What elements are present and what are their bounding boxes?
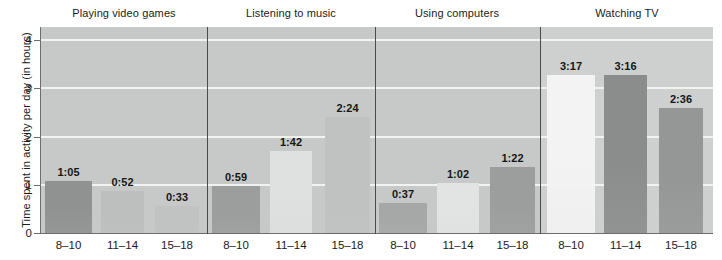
x-axis-line <box>40 233 713 234</box>
y-tick-label-1: 1 <box>14 179 32 191</box>
bar-value-2-3: 2:24 <box>336 102 358 114</box>
gridline-4 <box>41 39 713 41</box>
x-tick-label-4-1: 8–10 <box>558 239 584 251</box>
x-tick-label-3-3: 15–18 <box>497 239 529 251</box>
bar-value-3-3: 1:22 <box>501 152 523 164</box>
group-divider-3 <box>540 27 541 234</box>
y-tick-label-4: 4 <box>14 34 32 46</box>
x-tick-label-1-2: 11–14 <box>107 239 138 251</box>
bar-4-3 <box>659 108 703 233</box>
bar-value-2-2: 1:42 <box>280 136 302 148</box>
bar-value-1-1: 1:05 <box>57 166 79 178</box>
y-tick-label-2: 2 <box>14 131 32 143</box>
x-tick-label-2-2: 11–14 <box>275 239 306 251</box>
x-tick-label-1-1: 8–10 <box>56 239 82 251</box>
group-title-3: Using computers <box>415 7 499 19</box>
bar-2-3 <box>325 117 370 233</box>
y-tick-label-3: 3 <box>14 82 32 94</box>
bar-4-1 <box>547 75 595 233</box>
y-tick-1 <box>34 185 41 186</box>
y-tick-2 <box>34 137 41 138</box>
bar-value-2-1: 0:59 <box>225 171 247 183</box>
y-tick-label-0: 0 <box>14 227 32 239</box>
group-title-2: Listening to music <box>246 7 336 19</box>
bar-2-1 <box>212 186 260 233</box>
group-title-4: Watching TV <box>595 7 658 19</box>
group-divider-2 <box>375 27 376 234</box>
y-axis-line <box>40 27 41 234</box>
bar-chart: Time spent in activity per day (in hours… <box>0 0 722 260</box>
x-tick-label-3-1: 8–10 <box>390 239 416 251</box>
bar-4-2 <box>604 75 647 233</box>
bar-3-2 <box>437 183 479 233</box>
x-tick-label-2-1: 8–10 <box>223 239 249 251</box>
group-divider-1 <box>207 27 208 234</box>
y-tick-0 <box>34 233 41 234</box>
group-title-1: Playing video games <box>72 7 175 19</box>
x-tick-label-1-3: 15–18 <box>161 239 193 251</box>
bar-value-4-3: 2:36 <box>670 93 692 105</box>
bar-3-1 <box>379 203 427 233</box>
bar-1-1 <box>45 181 92 233</box>
y-tick-4 <box>34 40 41 41</box>
bar-value-1-3: 0:33 <box>166 191 188 203</box>
bar-3-3 <box>490 167 535 233</box>
bar-value-3-1: 0:37 <box>392 188 414 200</box>
bar-value-1-2: 0:52 <box>111 176 133 188</box>
bar-value-4-1: 3:17 <box>560 60 582 72</box>
x-tick-label-2-3: 15–18 <box>332 239 364 251</box>
bar-1-2 <box>101 191 144 233</box>
y-axis-title: Time spent in activity per day (in hours… <box>20 25 32 235</box>
bar-2-2 <box>270 151 312 233</box>
bar-value-3-2: 1:02 <box>447 168 469 180</box>
x-tick-label-3-2: 11–14 <box>442 239 473 251</box>
bar-value-4-2: 3:16 <box>614 60 636 72</box>
x-tick-label-4-2: 11–14 <box>610 239 641 251</box>
y-tick-3 <box>34 88 41 89</box>
bar-1-3 <box>155 206 199 233</box>
x-tick-label-4-3: 15–18 <box>665 239 697 251</box>
